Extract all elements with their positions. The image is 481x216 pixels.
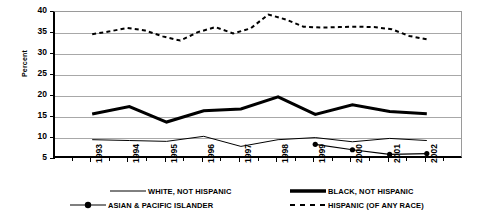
plot-area <box>53 11 462 158</box>
y-axis-tick-label: 30 <box>25 48 47 57</box>
chart-legend: WHITE, NOT HISPANICBLACK, NOT HISPANICAS… <box>53 185 462 213</box>
x-axis-tick-label: 1993 <box>94 144 104 163</box>
x-axis-tick-mark <box>239 158 240 162</box>
x-axis-minor-tick-mark <box>258 158 259 161</box>
series-layer <box>55 12 464 159</box>
legend-item-white-not-hispanic[interactable]: WHITE, NOT HISPANIC <box>108 185 231 197</box>
x-axis-tick-label: 1999 <box>317 144 327 163</box>
x-axis-minor-tick-mark <box>332 158 333 161</box>
legend-swatch-icon-white-not-hispanic <box>108 185 148 197</box>
x-axis-minor-tick-mark <box>295 158 296 161</box>
x-axis-tick-mark <box>127 158 128 162</box>
x-axis-tick-label: 2002 <box>429 144 439 163</box>
x-axis-tick-label: 1996 <box>206 144 216 163</box>
x-axis-minor-tick-mark <box>369 158 370 161</box>
legend-swatch-icon-hispanic-of-any-race <box>288 199 328 211</box>
x-axis-tick-mark <box>90 158 91 162</box>
legend-item-hispanic-of-any-race[interactable]: HISPANIC (OF ANY RACE) <box>288 199 424 211</box>
x-axis-minor-tick-mark <box>109 158 110 161</box>
x-axis-minor-tick-mark <box>443 158 444 161</box>
x-axis-tick-label: 1998 <box>280 144 290 163</box>
x-axis-tick-mark <box>388 158 389 162</box>
legend-label-white-not-hispanic: WHITE, NOT HISPANIC <box>148 187 231 196</box>
series-line-white-not-hispanic <box>92 136 427 146</box>
y-axis-tick-label: 35 <box>25 27 47 36</box>
x-axis-minor-tick-mark <box>72 158 73 161</box>
x-axis-tick-mark <box>425 158 426 162</box>
x-axis-minor-tick-mark <box>406 158 407 161</box>
legend-item-asian-pacific-islander[interactable]: ASIAN & PACIFIC ISLANDER <box>68 199 213 211</box>
x-axis-tick-mark <box>276 158 277 162</box>
x-axis-tick-mark <box>350 158 351 162</box>
legend-label-hispanic-of-any-race: HISPANIC (OF ANY RACE) <box>328 201 424 210</box>
x-axis-minor-tick-mark <box>183 158 184 161</box>
series-line-hispanic-of-any-race <box>92 15 427 41</box>
legend-label-black-not-hispanic: BLACK, NOT HISPANIC <box>328 187 414 196</box>
x-axis-tick-mark <box>313 158 314 162</box>
legend-item-black-not-hispanic[interactable]: BLACK, NOT HISPANIC <box>288 185 414 197</box>
x-axis-minor-tick-mark <box>220 158 221 161</box>
legend-label-asian-pacific-islander: ASIAN & PACIFIC ISLANDER <box>108 201 213 210</box>
line-chart: Percent 403530252015105 1993199419951996… <box>0 0 481 216</box>
y-axis-tick-label: 10 <box>25 132 47 141</box>
x-axis-tick-mark <box>165 158 166 162</box>
x-axis-tick-label: 2001 <box>392 144 402 163</box>
y-axis-tick-label: 20 <box>25 90 47 99</box>
x-axis-minor-tick-mark <box>146 158 147 161</box>
y-axis-title: Percent <box>21 38 28 90</box>
y-axis-tick-label: 5 <box>25 153 47 162</box>
series-line-asian-pacific-islander <box>315 144 427 154</box>
series-line-black-not-hispanic <box>92 97 427 122</box>
x-axis-tick-label: 1994 <box>131 144 141 163</box>
legend-swatch-icon-asian-pacific-islander <box>68 199 108 211</box>
y-axis-tick-label: 15 <box>25 111 47 120</box>
legend-swatch-icon-black-not-hispanic <box>288 185 328 197</box>
x-axis-tick-label: 2000 <box>354 144 364 163</box>
y-axis-tick-label: 25 <box>25 69 47 78</box>
y-axis-tick-label: 40 <box>25 6 47 15</box>
x-axis-tick-mark <box>202 158 203 162</box>
x-axis-tick-label: 1997 <box>243 144 253 163</box>
x-axis-tick-label: 1995 <box>169 144 179 163</box>
